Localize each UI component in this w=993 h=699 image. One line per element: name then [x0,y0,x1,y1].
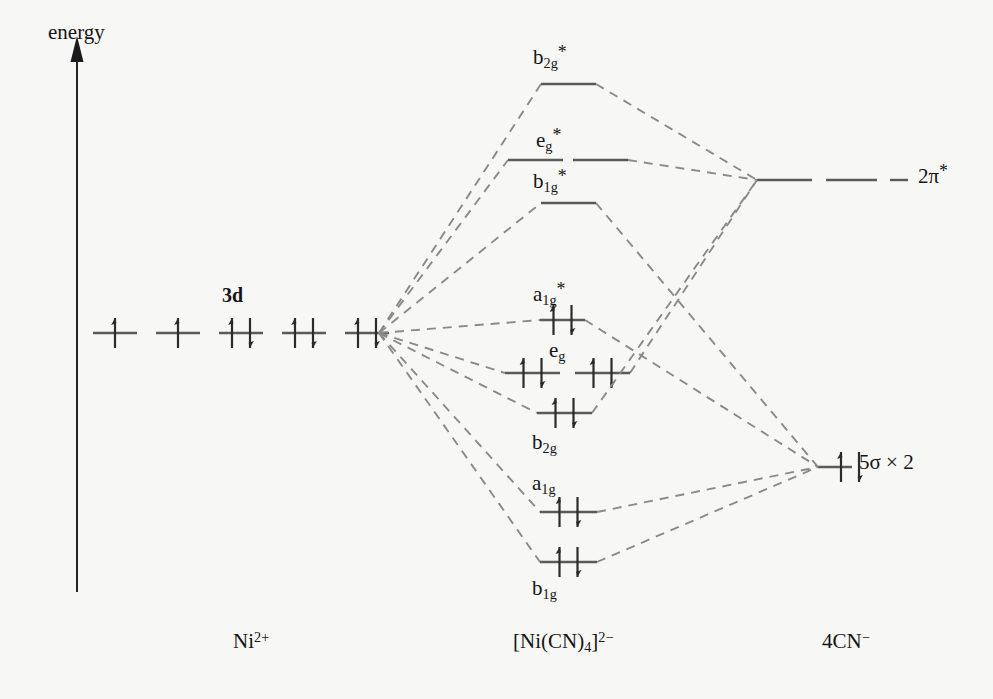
metal-3d-label: 3d [222,285,243,305]
correlation-ligand-a1g-star [585,320,818,467]
mo-level-label-eg: eg [549,340,565,363]
ligand-level-label-sigma: 5σ × 2 [859,452,914,473]
correlation-ligand-a1g [597,467,818,512]
correlation-metal-b1g-star [379,203,541,333]
correlation-metal-eg [379,333,505,373]
correlation-metal-b1g [379,333,540,562]
mo-level-label-b2g-star: b2g* [533,44,567,70]
correlation-metal-a1g-star [379,320,540,333]
mo-level-label-b2g: b2g [532,432,557,455]
correlation-metal-b2g-star [379,84,541,333]
correlation-ligand-b1g [597,467,818,562]
diagram-vector-layer [0,0,993,699]
correlation-ligand-b2g-star [596,84,757,180]
mo-diagram-canvas: energy3d2π*5σ × 2b2g*eg*b1g*a1g*egb2ga1g… [0,0,993,699]
correlation-ligand-b1g-star [596,203,818,467]
correlation-metal-a1g [379,333,540,512]
correlation-metal-eg-star [379,160,508,333]
ligand-level-label-pi-star: 2π* [918,163,948,187]
correlation-ligand-eg [630,180,757,373]
mo-level-label-b1g-star: b1g* [533,168,567,194]
correlation-ligand-b2g [592,180,757,413]
mo-level-label-a1g: a1g [532,473,556,496]
complex-label: [Ni(CN)4]2− [513,630,613,654]
mo-level-label-a1g-star: a1g* [533,281,566,307]
energy-axis-label: energy [48,22,105,43]
mo-level-label-eg-star: eg* [536,127,561,153]
correlation-ligand-eg-star [628,160,757,180]
metal-label: Ni2+ [233,630,269,652]
ligand-label: 4CN− [822,630,870,652]
mo-level-label-b1g: b1g [532,578,557,601]
